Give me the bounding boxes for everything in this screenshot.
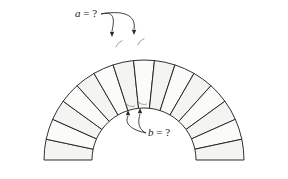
- label-b: b = ?: [148, 126, 170, 138]
- label-b-equals: = ?: [154, 126, 171, 138]
- label-a-equals: = ?: [81, 7, 98, 19]
- arrowhead-a-right: [132, 30, 136, 35]
- voussoir-group: [44, 60, 244, 160]
- leader-a-right: [101, 13, 134, 29]
- angle-arc-a: [116, 40, 123, 47]
- leader-a-left: [101, 13, 113, 31]
- arrowhead-b-right: [138, 108, 142, 113]
- arch-diagram-figure: a = ? b = ?: [0, 0, 288, 179]
- leader-b-left: [127, 116, 146, 133]
- label-a: a = ?: [75, 7, 97, 19]
- leader-b-right: [139, 114, 146, 133]
- arch-diagram-svg: a = ? b = ?: [0, 0, 288, 179]
- arrowhead-a-left: [110, 32, 114, 37]
- angle-arc-a: [138, 38, 145, 45]
